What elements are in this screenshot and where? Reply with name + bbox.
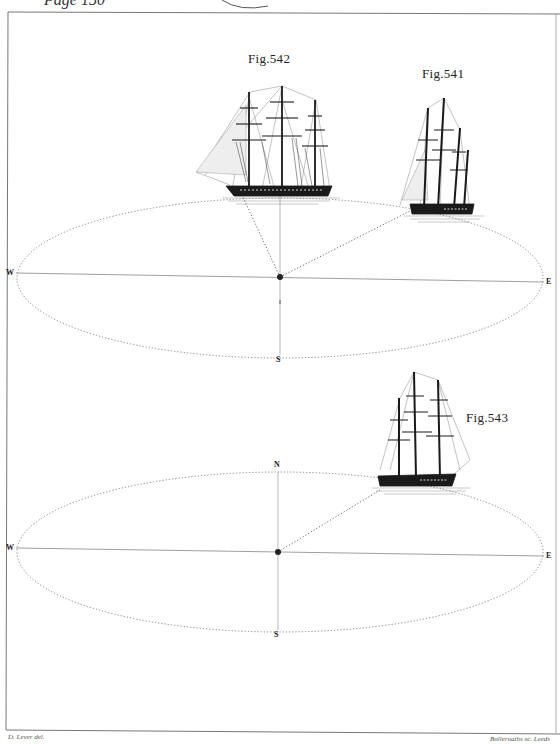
top-compass-diagram [16,195,544,358]
figure-label-543: Fig.543 [466,410,508,426]
center-point [275,549,281,555]
compass-east-top: E [546,277,551,286]
ship-fig541-illustration [400,98,484,222]
compass-west-top: W [6,268,14,277]
plate-border [6,0,560,734]
engraved-plate: Page 150 [0,0,560,744]
bottom-compass-diagram [16,472,544,632]
figure-label-542: Fig.542 [248,51,290,67]
ship-fig543-illustration [372,372,470,494]
center-point [277,274,283,280]
compass-south-bottom: S [274,630,278,639]
engraver-credit: Bolleruaths sc. Leeds [490,735,550,743]
compass-east-bottom: E [546,551,551,560]
compass-north-bottom: N [274,460,280,469]
compass-west-bottom: W [6,543,14,552]
figure-label-541: Fig.541 [422,66,464,82]
ship-fig542-illustration [196,86,340,204]
draughtsman-credit: D. Lever del. [8,733,45,741]
plate-drawing [0,0,560,744]
compass-south-top: S [276,355,280,364]
